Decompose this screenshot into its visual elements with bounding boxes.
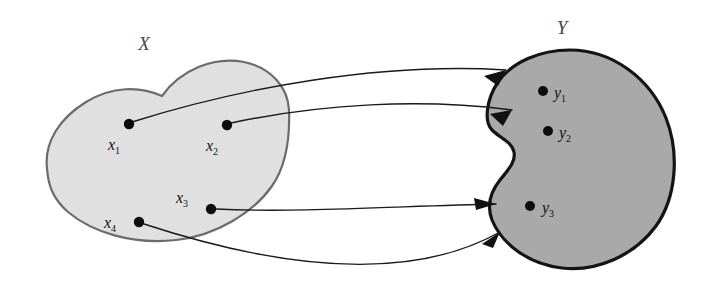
domain-point-x3 <box>206 204 216 214</box>
codomain-point-y2 <box>543 126 553 136</box>
point-marker-x2 <box>222 120 232 130</box>
diagram-canvas: x1x2x3x4 y1y2y3 X Y <box>0 0 706 291</box>
codomain-point-y1 <box>538 86 548 96</box>
domain-point-x2 <box>222 120 232 130</box>
set-x-label: X <box>137 33 151 54</box>
set-x-region <box>47 61 290 241</box>
point-marker-y1 <box>538 86 548 96</box>
point-marker-y2 <box>543 126 553 136</box>
set-y-label: Y <box>557 17 570 38</box>
point-marker-x4 <box>134 217 144 227</box>
point-marker-x3 <box>206 204 216 214</box>
codomain-point-y3 <box>525 201 535 211</box>
point-marker-x1 <box>124 119 134 129</box>
map-x3-to-y3 <box>216 204 496 210</box>
point-marker-y3 <box>525 201 535 211</box>
set-y-region <box>487 50 674 269</box>
set-mapping-figure: x1x2x3x4 y1y2y3 X Y <box>0 0 706 291</box>
domain-point-x1 <box>124 119 134 129</box>
domain-point-x4 <box>134 217 144 227</box>
